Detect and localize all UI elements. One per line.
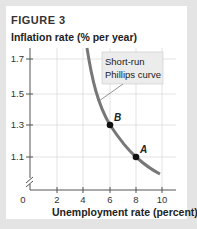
x-tick: 10 [157,194,168,205]
x-tick: 6 [107,194,112,205]
x-tick: 0 [20,194,25,205]
x-tick: 2 [54,194,59,205]
point-a-label: A [139,144,147,155]
y-tick: 1.5 [11,88,24,99]
y-tick: 1.7 [11,53,24,64]
x-tick: 4 [80,194,85,205]
y-tick: 1.1 [11,151,24,162]
curve-label-line2: Phillips curve [105,69,161,80]
point-b-label: B [114,112,121,123]
x-tick: 8 [133,194,138,205]
chart-plot: 1.7 1.5 1.3 1.1 0 2 4 6 8 10 Short-run P… [0,0,197,229]
point-b [107,122,114,129]
y-tick: 1.3 [11,119,24,130]
point-a [133,154,140,161]
x-axis-label: Unemployment rate (percent) [52,206,197,218]
curve-label-line1: Short-run [105,56,145,67]
curve-label-leader [99,84,123,101]
